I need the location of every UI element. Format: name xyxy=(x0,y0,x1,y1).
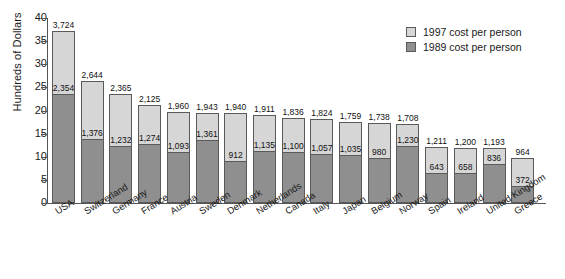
y-axis-tick-label: 25 xyxy=(12,80,47,92)
bar-group[interactable]: 1,9431,361 xyxy=(196,18,219,203)
y-axis-tick-label: 5 xyxy=(12,173,47,185)
legend-swatch-icon xyxy=(406,42,416,52)
bar-value-label-1989: 2,354 xyxy=(47,83,80,93)
bar-value-label-1997: 964 xyxy=(505,147,540,157)
y-axis-tick-label: 10 xyxy=(12,150,47,162)
bar-value-label-1997: 2,644 xyxy=(75,70,110,80)
legend-item-label: 1997 cost per person xyxy=(423,26,522,38)
y-axis-tick-label: 30 xyxy=(12,57,47,69)
legend-swatch-icon xyxy=(406,27,416,37)
bar-value-label-1989: 980 xyxy=(363,147,396,157)
bar-value-label-1989: 912 xyxy=(219,150,252,160)
bar-segment-1989[interactable] xyxy=(196,140,219,203)
bar-group[interactable]: 1,940912 xyxy=(224,18,247,203)
legend-item[interactable]: 1989 cost per person xyxy=(406,40,556,53)
bar-group[interactable]: 2,3651,232 xyxy=(109,18,132,203)
chart-figure: Hundreds of Dollars 0510152025303540 3,7… xyxy=(0,0,565,279)
bar-value-label-1997: 1,708 xyxy=(390,113,425,123)
bar-segment-1989[interactable] xyxy=(52,94,75,203)
bar-group[interactable]: 1,9601,093 xyxy=(167,18,190,203)
y-axis-tick-label: 20 xyxy=(12,104,47,116)
bar-group[interactable]: 1,8241,057 xyxy=(310,18,333,203)
chart-legend: 1997 cost per person1989 cost per person xyxy=(406,25,556,55)
bar-group[interactable]: 2,6441,376 xyxy=(81,18,104,203)
y-axis-tick-label: 0 xyxy=(12,196,47,208)
bar-group[interactable]: 2,1251,274 xyxy=(138,18,161,203)
bar-value-label-1997: 2,365 xyxy=(103,83,138,93)
bar-group[interactable]: 1,7591,035 xyxy=(339,18,362,203)
bar-group[interactable]: 1,8361,100 xyxy=(282,18,305,203)
y-axis-tick-label: 35 xyxy=(12,34,47,46)
bar-segment-1989[interactable] xyxy=(81,139,104,203)
legend-item-label: 1989 cost per person xyxy=(423,41,522,53)
bar-value-label-1997: 1,193 xyxy=(477,137,512,147)
x-axis-labels: USASwitzerlandGermanyFranceAustriaSweden… xyxy=(47,205,557,279)
bar-value-label-1997: 3,724 xyxy=(46,20,81,30)
y-axis-tick-label: 40 xyxy=(12,11,47,23)
bar-group[interactable]: 1,9111,135 xyxy=(253,18,276,203)
bar-group[interactable]: 1,738980 xyxy=(368,18,391,203)
legend-item[interactable]: 1997 cost per person xyxy=(406,25,556,38)
bar-group[interactable]: 3,7242,354 xyxy=(52,18,75,203)
y-axis-tick-label: 15 xyxy=(12,127,47,139)
bar-value-label-1989: 1,093 xyxy=(162,141,195,151)
bar-value-label-1989: 1,361 xyxy=(191,129,224,139)
